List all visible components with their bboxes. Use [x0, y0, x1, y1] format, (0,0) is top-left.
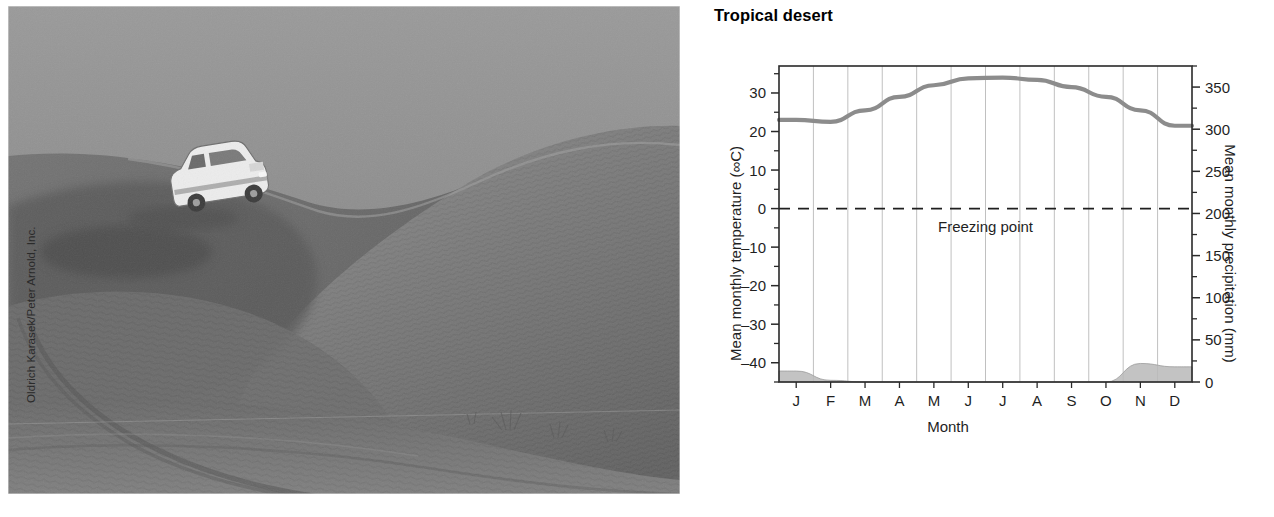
climograph-svg: Freezing point3020100–10–20–30–403503002…	[690, 0, 1274, 460]
x-tick-label: J	[792, 392, 800, 409]
y2-tick-label: 0	[1205, 374, 1213, 391]
y-axis-label-right: Mean monthly precipitation (mm)	[1222, 129, 1239, 379]
x-tick-label: J	[999, 392, 1007, 409]
x-tick-label: M	[859, 392, 872, 409]
y-tick-label: 30	[749, 84, 766, 101]
x-tick-label: N	[1135, 392, 1146, 409]
y-tick-label: –20	[741, 277, 766, 294]
y-axis-label-left: Mean monthly temperature (∞C)	[727, 129, 744, 379]
photograph-panel: Oldrich Karasek/Peter Arnold, Inc.	[0, 0, 686, 497]
y-tick-label: 0	[758, 200, 766, 217]
x-tick-label: O	[1100, 392, 1112, 409]
x-tick-label: S	[1067, 392, 1077, 409]
x-tick-label: D	[1169, 392, 1180, 409]
climograph-panel: Tropical desert Freezing point3020100–10…	[690, 0, 1274, 517]
plot-area: Freezing point3020100–10–20–30–403503002…	[690, 0, 1274, 460]
y-tick-label: –10	[741, 239, 766, 256]
x-tick-label: M	[928, 392, 941, 409]
x-axis-label: Month	[690, 418, 1206, 435]
y-tick-label: –30	[741, 316, 766, 333]
x-tick-label: J	[965, 392, 973, 409]
photo-illustration	[8, 6, 680, 494]
y-tick-label: 10	[749, 162, 766, 179]
desert-dune-suv-photograph	[8, 6, 680, 494]
x-tick-label: A	[894, 392, 904, 409]
y-tick-label: 20	[749, 123, 766, 140]
y2-tick-label: 350	[1205, 79, 1230, 96]
freezing-point-label: Freezing point	[938, 218, 1034, 235]
x-tick-label: F	[826, 392, 835, 409]
y-tick-label: –40	[741, 354, 766, 371]
y2-tick-label: 50	[1205, 331, 1222, 348]
photo-credit: Oldrich Karasek/Peter Arnold, Inc.	[25, 193, 37, 403]
x-tick-label: A	[1032, 392, 1042, 409]
